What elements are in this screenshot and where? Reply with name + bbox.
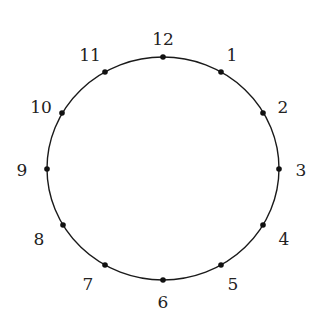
- hour-label-2: 2: [278, 97, 289, 117]
- hour-label-7: 7: [83, 274, 94, 294]
- clock-diagram: 121234567891011: [0, 0, 320, 328]
- hour-label-1: 1: [227, 45, 238, 65]
- hour-point-12: [160, 54, 166, 60]
- hour-point-5: [218, 262, 224, 268]
- hour-point-11: [102, 69, 108, 75]
- hour-point-2: [260, 110, 266, 116]
- hour-point-8: [60, 222, 66, 228]
- hour-point-1: [218, 69, 224, 75]
- hour-point-4: [260, 222, 266, 228]
- clock-circle-figure: 121234567891011: [0, 0, 320, 328]
- clock-circle: [47, 57, 279, 280]
- hour-label-12: 12: [152, 29, 174, 49]
- hour-label-5: 5: [228, 274, 239, 294]
- hour-points: [44, 54, 282, 283]
- hour-point-6: [160, 277, 166, 283]
- hour-point-3: [276, 166, 282, 172]
- hour-label-4: 4: [279, 229, 290, 249]
- hour-label-11: 11: [79, 45, 101, 65]
- hour-label-8: 8: [34, 229, 45, 249]
- hour-label-3: 3: [296, 160, 307, 180]
- hour-labels: 121234567891011: [17, 29, 307, 312]
- hour-label-9: 9: [17, 160, 28, 180]
- hour-point-10: [59, 110, 65, 116]
- hour-label-6: 6: [158, 292, 169, 312]
- hour-point-7: [102, 262, 108, 268]
- hour-label-10: 10: [30, 97, 52, 117]
- hour-point-9: [44, 166, 50, 172]
